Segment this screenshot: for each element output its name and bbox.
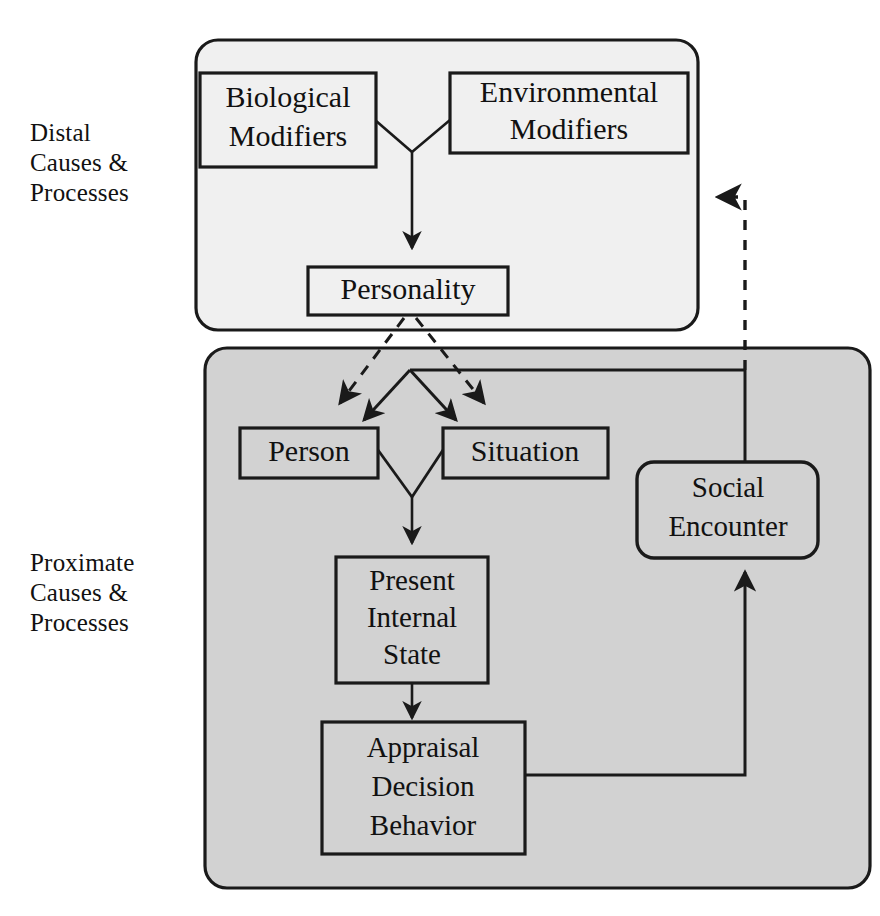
social-encounter-line-1: Social [692, 471, 765, 503]
biological-modifiers-line-1: Biological [226, 80, 351, 113]
person-label: Person [268, 434, 350, 467]
node-person: Person [240, 428, 378, 478]
proximate-feedback-to-distal-edge [718, 197, 745, 370]
diagram-canvas: Biological Modifiers Environmental Modif… [0, 0, 880, 916]
node-present-internal-state: Present Internal State [336, 557, 488, 683]
node-situation: Situation [443, 428, 608, 478]
environmental-modifiers-line-2: Modifiers [510, 112, 628, 145]
environmental-modifiers-line-1: Environmental [480, 75, 658, 108]
personality-label: Personality [341, 272, 476, 305]
node-appraisal-decision-behavior: Appraisal Decision Behavior [322, 722, 525, 854]
node-personality: Personality [308, 267, 508, 315]
distal-section-label: Distal Causes & Processes [30, 118, 195, 208]
appraisal-line-1: Appraisal [367, 731, 480, 763]
node-biological-modifiers: Biological Modifiers [200, 73, 376, 167]
present-internal-state-line-3: State [383, 638, 441, 670]
biological-modifiers-line-2: Modifiers [229, 119, 347, 152]
appraisal-line-3: Behavior [370, 809, 477, 841]
present-internal-state-line-1: Present [369, 564, 454, 596]
appraisal-line-2: Decision [371, 770, 475, 802]
node-environmental-modifiers: Environmental Modifiers [450, 73, 688, 153]
proximate-section-label: Proximate Causes & Processes [30, 548, 205, 638]
node-social-encounter: Social Encounter [637, 462, 818, 558]
situation-label: Situation [471, 434, 579, 467]
social-encounter-line-2: Encounter [668, 510, 788, 542]
present-internal-state-line-2: Internal [367, 601, 457, 633]
